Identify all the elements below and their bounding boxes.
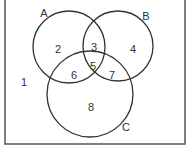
region-label-8: 8 — [88, 101, 94, 113]
region-label-5: 5 — [90, 60, 96, 72]
set-label-b: B — [142, 10, 149, 22]
set-label-a: A — [40, 7, 48, 19]
region-label-4: 4 — [130, 43, 136, 55]
region-label-6: 6 — [71, 69, 77, 81]
region-label-7: 7 — [109, 69, 115, 81]
region-label-3: 3 — [91, 41, 97, 53]
region-label-1: 1 — [21, 76, 27, 88]
set-label-c: C — [122, 121, 130, 133]
venn-diagram: ABC12345678 — [0, 0, 189, 150]
region-label-2: 2 — [55, 43, 61, 55]
